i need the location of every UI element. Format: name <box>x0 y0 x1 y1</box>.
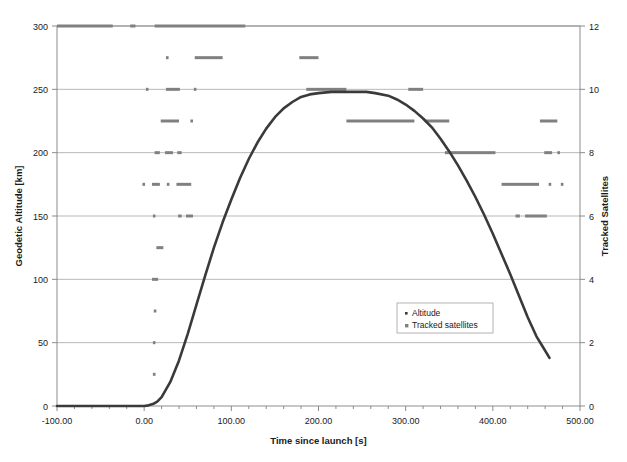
y2-axis-tick-label: 8 <box>589 148 594 158</box>
x-axis-tick-label: 0.00 <box>135 416 153 426</box>
satellite-data-marker <box>186 215 193 218</box>
y-axis-tick-label: 100 <box>33 275 48 285</box>
y-axis-tick-label: 200 <box>33 148 48 158</box>
chart-legend: AltitudeTracked satellites <box>397 303 493 333</box>
satellite-data-marker <box>178 215 181 218</box>
satellite-data-marker <box>190 120 193 123</box>
y-axis-title: Geodetic Altitude [km] <box>13 166 24 267</box>
y2-axis-tick-label: 0 <box>589 402 594 412</box>
satellite-data-marker <box>165 151 173 154</box>
satellite-data-marker <box>152 278 158 281</box>
legend-label-tracked-satellites: Tracked satellites <box>412 320 478 330</box>
launch-trajectory-chart: -100.000.00100.00200.00300.00400.00500.0… <box>0 0 627 462</box>
x-axis-tick-label: 100.00 <box>218 416 246 426</box>
y2-axis-tick-label: 4 <box>589 275 594 285</box>
satellite-data-marker <box>549 183 552 186</box>
satellite-data-marker <box>194 88 197 91</box>
y2-axis-tick-label: 10 <box>589 85 599 95</box>
y-axis-tick-label: 300 <box>33 22 48 32</box>
satellite-data-marker <box>152 183 160 186</box>
satellite-data-marker <box>153 341 156 344</box>
x-axis-tick-label: 500.00 <box>566 416 594 426</box>
satellite-data-marker <box>130 25 135 28</box>
satellite-data-marker <box>299 56 318 59</box>
satellite-data-marker <box>177 151 181 154</box>
y-axis-tick-label: 150 <box>33 212 48 222</box>
y-axis-tick-label: 250 <box>33 85 48 95</box>
satellite-data-marker <box>155 25 246 28</box>
satellite-data-marker <box>561 183 564 186</box>
satellite-data-marker <box>544 151 552 154</box>
satellite-data-marker <box>146 88 149 91</box>
satellite-data-marker <box>445 151 496 154</box>
y2-axis-tick-label: 12 <box>589 22 599 32</box>
satellite-data-marker <box>57 25 113 28</box>
satellite-data-marker <box>502 183 539 186</box>
y2-axis-title: Tracked Satellites <box>599 176 610 256</box>
satellite-data-marker <box>540 120 557 123</box>
y-axis-tick-label: 50 <box>38 338 48 348</box>
satellite-data-marker <box>346 120 414 123</box>
satellite-data-marker <box>161 120 179 123</box>
satellite-data-marker <box>154 310 157 313</box>
y-axis-tick-label: 0 <box>43 402 48 412</box>
satellite-data-marker <box>408 88 423 91</box>
satellite-data-marker <box>142 183 145 186</box>
satellite-data-marker <box>306 88 346 91</box>
satellite-data-marker <box>515 215 519 218</box>
satellite-data-marker <box>176 183 191 186</box>
satellite-data-marker <box>153 215 156 218</box>
x-axis-tick-label: 400.00 <box>479 416 507 426</box>
satellite-data-marker <box>525 215 547 218</box>
satellite-data-marker <box>167 183 170 186</box>
legend-swatch-tracked-satellites <box>405 324 408 327</box>
satellite-data-marker <box>166 56 169 59</box>
satellite-data-marker <box>155 151 160 154</box>
x-axis-tick-label: -100.00 <box>42 416 73 426</box>
y2-axis-tick-label: 6 <box>589 212 594 222</box>
satellite-data-marker <box>156 246 163 249</box>
y2-axis-tick-label: 2 <box>589 338 594 348</box>
satellite-data-marker <box>195 56 223 59</box>
satellite-data-marker <box>557 151 560 154</box>
chart-container: -100.000.00100.00200.00300.00400.00500.0… <box>0 0 627 462</box>
satellite-data-marker <box>166 88 180 91</box>
satellite-data-marker <box>425 120 449 123</box>
x-axis-tick-label: 300.00 <box>392 416 420 426</box>
legend-swatch-altitude <box>405 312 408 315</box>
x-axis-tick-label: 200.00 <box>305 416 333 426</box>
satellite-data-marker <box>153 373 156 376</box>
legend-label-altitude: Altitude <box>412 308 441 318</box>
x-axis-title: Time since launch [s] <box>270 435 366 446</box>
